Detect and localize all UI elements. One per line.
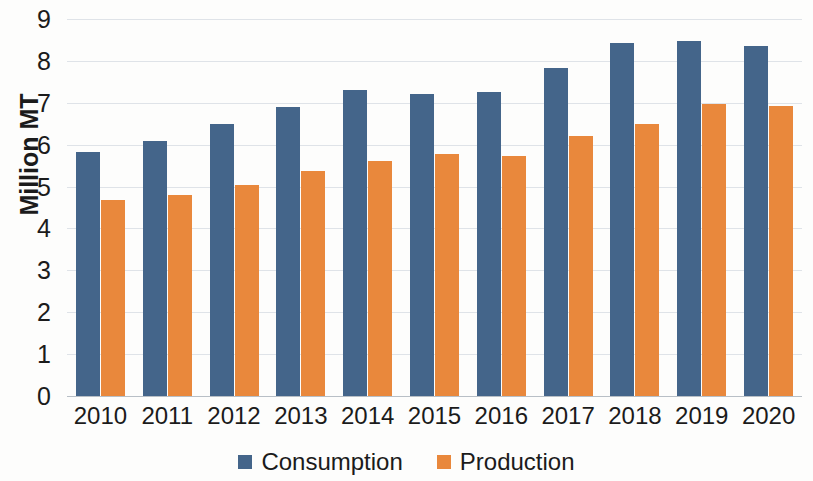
y-tick-label: 3: [11, 258, 51, 283]
x-tick-label: 2011: [134, 404, 201, 428]
y-tick-label: 2: [11, 300, 51, 325]
bar-chart: Million MT 0123456789 201020112012201320…: [0, 0, 813, 481]
bar-production-2013[interactable]: [301, 171, 325, 396]
bar-group: [401, 19, 468, 396]
x-tick-label: 2013: [267, 404, 334, 428]
legend-swatch-icon: [437, 455, 451, 469]
legend-item-production[interactable]: Production: [437, 450, 575, 474]
y-tick-label: 4: [11, 216, 51, 241]
legend-item-consumption[interactable]: Consumption: [238, 450, 402, 474]
bar-production-2019[interactable]: [702, 104, 726, 396]
plot-area: [67, 19, 802, 396]
x-tick-label: 2012: [201, 404, 268, 428]
bar-consumption-2013[interactable]: [276, 107, 300, 396]
bar-production-2017[interactable]: [569, 136, 593, 396]
legend-label: Consumption: [261, 450, 402, 474]
y-tick-label: 6: [11, 132, 51, 157]
x-axis-tick-labels: 2010201120122013201420152016201720182019…: [67, 404, 802, 440]
x-tick-label: 2018: [602, 404, 669, 428]
bar-production-2012[interactable]: [235, 185, 259, 396]
bar-consumption-2010[interactable]: [76, 152, 100, 396]
bar-group: [67, 19, 134, 396]
x-tick-label: 2014: [334, 404, 401, 428]
bar-production-2020[interactable]: [769, 106, 793, 396]
bar-production-2014[interactable]: [368, 161, 392, 396]
bar-group: [201, 19, 268, 396]
gridline: [67, 396, 802, 397]
bar-consumption-2017[interactable]: [544, 68, 568, 396]
bar-production-2015[interactable]: [435, 154, 459, 396]
bar-consumption-2014[interactable]: [343, 90, 367, 396]
bar-consumption-2015[interactable]: [410, 94, 434, 396]
bar-group: [735, 19, 802, 396]
bar-consumption-2019[interactable]: [677, 41, 701, 396]
bar-group: [334, 19, 401, 396]
chart-legend: ConsumptionProduction: [0, 450, 813, 474]
legend-label: Production: [460, 450, 575, 474]
bar-production-2018[interactable]: [635, 124, 659, 396]
x-tick-label: 2019: [668, 404, 735, 428]
bar-consumption-2020[interactable]: [744, 46, 768, 396]
x-tick-label: 2020: [735, 404, 802, 428]
y-tick-label: 0: [11, 384, 51, 409]
bar-consumption-2016[interactable]: [477, 92, 501, 396]
y-tick-label: 8: [11, 48, 51, 73]
x-tick-label: 2016: [468, 404, 535, 428]
y-tick-label: 9: [11, 7, 51, 32]
bar-production-2016[interactable]: [502, 156, 526, 396]
bar-group: [668, 19, 735, 396]
y-axis-tick-labels: 0123456789: [0, 19, 67, 396]
x-tick-label: 2017: [535, 404, 602, 428]
bar-group: [602, 19, 669, 396]
x-tick-label: 2015: [401, 404, 468, 428]
bar-group: [134, 19, 201, 396]
y-tick-label: 7: [11, 90, 51, 115]
bar-production-2010[interactable]: [101, 200, 125, 396]
bar-production-2011[interactable]: [168, 195, 192, 396]
y-tick-label: 5: [11, 174, 51, 199]
bar-group: [535, 19, 602, 396]
bar-consumption-2012[interactable]: [210, 124, 234, 396]
x-tick-label: 2010: [67, 404, 134, 428]
bar-consumption-2018[interactable]: [610, 43, 634, 396]
legend-swatch-icon: [238, 455, 252, 469]
bar-consumption-2011[interactable]: [143, 141, 167, 396]
bar-group: [267, 19, 334, 396]
bar-group: [468, 19, 535, 396]
y-tick-label: 1: [11, 342, 51, 367]
